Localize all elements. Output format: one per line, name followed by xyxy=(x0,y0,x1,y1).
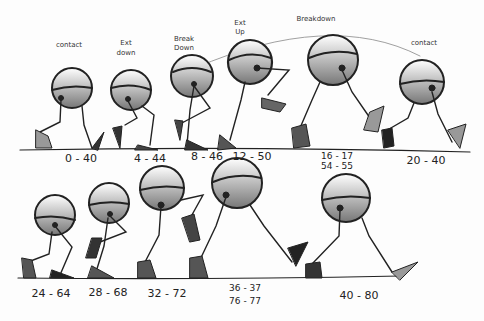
frame-label: 8 - 46 xyxy=(191,151,223,162)
frame-label: 40 - 80 xyxy=(340,290,379,301)
pose-label-ext: Ext xyxy=(120,40,131,47)
frame-label: 76 - 77 xyxy=(229,297,261,306)
pose-label-down-2: Down xyxy=(174,45,194,52)
pose-36-76 xyxy=(190,158,308,278)
frame-label: 32 - 72 xyxy=(148,288,187,299)
pose-label-down: down xyxy=(117,50,136,57)
frame-label: 24 - 64 xyxy=(32,288,71,299)
pose-ext-up xyxy=(218,40,289,150)
frame-label: 28 - 68 xyxy=(89,287,128,298)
pose-40-80 xyxy=(306,174,418,280)
pose-label-contact: contact xyxy=(56,42,82,49)
frame-label: 20 - 40 xyxy=(407,155,446,166)
pose-label-breakdown: Breakdown xyxy=(296,16,335,23)
pose-contact-2 xyxy=(382,60,466,148)
frame-label: 36 - 37 xyxy=(229,284,261,293)
ground-line-bottom xyxy=(18,276,400,279)
walk-cycle-sketch: contact Ext down Break Down Ext Up Break… xyxy=(0,0,484,321)
frame-label: 0 - 40 xyxy=(65,153,97,164)
frame-label: 16 - 17 xyxy=(321,152,353,161)
pose-break-down xyxy=(171,55,213,150)
pose-label-break: Break xyxy=(174,36,194,43)
pose-label-contact-2: contact xyxy=(411,40,437,47)
frame-label: 54 - 55 xyxy=(321,162,353,171)
pose-breakdown xyxy=(292,35,384,148)
pose-label-up: Up xyxy=(235,29,245,36)
pose-contact-1 xyxy=(36,68,104,150)
pose-28-68 xyxy=(86,183,129,278)
frame-label: 12 - 50 xyxy=(233,151,272,162)
pose-ext-down xyxy=(111,70,158,150)
frame-label: 4 - 44 xyxy=(134,153,166,164)
pose-label-ext-2: Ext xyxy=(234,20,245,27)
pose-24-64 xyxy=(22,195,75,278)
